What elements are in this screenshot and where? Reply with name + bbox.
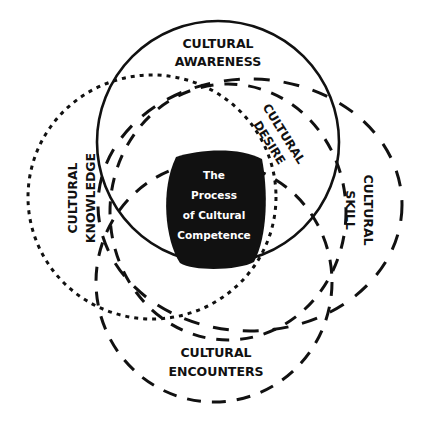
center-line-4: Competence <box>177 229 250 241</box>
awareness-label-line-2: AWARENESS <box>175 54 262 69</box>
skill-label: CULTURAL SKILL <box>343 174 376 245</box>
skill-label-line-1: CULTURAL <box>361 174 376 245</box>
center-line-3: of Cultural <box>183 209 246 221</box>
knowledge-label-line-1: CULTURAL <box>65 162 80 233</box>
center-line-2: Process <box>191 189 237 201</box>
knowledge-label-line-2: KNOWLEDGE <box>83 153 98 243</box>
awareness-label: CULTURAL AWARENESS <box>175 36 262 69</box>
cultural-competence-diagram: The Process of Cultural Competence CULTU… <box>0 0 424 425</box>
center-line-1: The <box>203 169 225 181</box>
encounters-label-line-1: CULTURAL <box>180 345 251 360</box>
knowledge-label: CULTURAL KNOWLEDGE <box>65 153 98 243</box>
encounters-label: CULTURAL ENCOUNTERS <box>168 345 263 379</box>
awareness-label-line-1: CULTURAL <box>182 36 253 51</box>
encounters-label-line-2: ENCOUNTERS <box>168 364 263 379</box>
skill-label-line-2: SKILL <box>343 190 358 229</box>
